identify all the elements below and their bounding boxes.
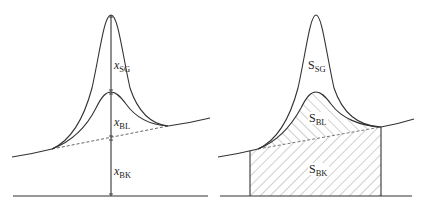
left-signal-peak-curve — [52, 15, 168, 149]
right-background-line-right — [381, 119, 414, 127]
label-s-sg-main: S — [308, 58, 315, 72]
label-x-bk: xBK — [114, 165, 131, 177]
left-background-dashed — [52, 126, 168, 149]
label-s-bk-sub: BK — [316, 168, 328, 178]
label-s-bk: SBK — [308, 163, 329, 175]
left-background-line-right — [168, 118, 210, 126]
left-panel — [12, 15, 210, 196]
label-x-bl-sub: BL — [119, 121, 130, 131]
label-x-bl: xBL — [114, 116, 130, 128]
label-s-sg: SSG — [308, 59, 326, 71]
label-x-sg: xSG — [114, 59, 130, 71]
diagram-canvas — [0, 0, 423, 212]
label-s-bl-sub: BL — [316, 117, 327, 127]
left-background-line-left — [12, 149, 52, 157]
label-s-sg-sub: SG — [315, 64, 326, 74]
label-s-bl: SBL — [308, 112, 328, 124]
label-s-bk-main: S — [309, 162, 316, 176]
label-x-bk-sub: BK — [119, 170, 131, 180]
label-x-sg-sub: SG — [119, 64, 130, 74]
label-s-bl-main: S — [309, 111, 316, 125]
